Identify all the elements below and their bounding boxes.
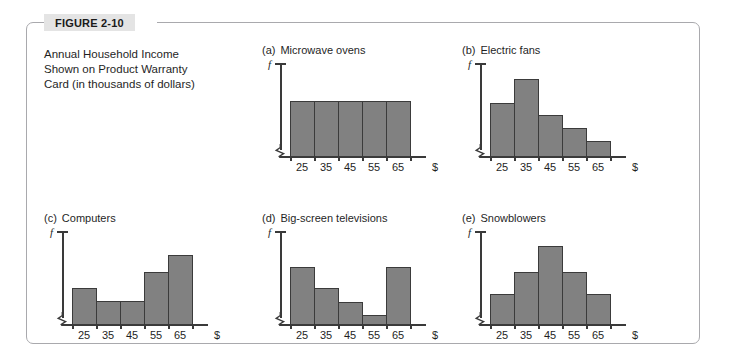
- panel-name-b: Electric fans: [480, 44, 540, 56]
- histogram-bar: [586, 141, 611, 157]
- x-axis-tick-label: 45: [339, 161, 361, 173]
- y-axis-cap: [475, 231, 486, 233]
- y-axis-label: f: [468, 226, 471, 238]
- panel-title-a: (a)Microwave ovens: [262, 44, 432, 58]
- histogram-bar: [338, 101, 363, 157]
- x-axis-tick-label: 55: [363, 161, 385, 173]
- x-axis-unit-symbol: $: [214, 329, 220, 341]
- x-axis-tick-label: 25: [491, 329, 513, 341]
- y-axis-cap: [475, 63, 486, 65]
- x-axis-tick-label: 65: [587, 329, 609, 341]
- panel-snowblowers: (e)Snowblowers f2535455565$: [462, 212, 632, 338]
- panel-title-d: (d)Big-screen televisions: [262, 212, 432, 226]
- panel-letter-c: (c): [44, 212, 57, 224]
- histogram-e: f2535455565$: [462, 226, 632, 338]
- panel-title-e: (e)Snowblowers: [462, 212, 632, 226]
- bars-layer: [72, 232, 192, 325]
- x-axis-tick-label: 35: [97, 329, 119, 341]
- x-axis-unit-symbol: $: [432, 161, 438, 173]
- histogram-bar: [514, 79, 539, 157]
- x-axis-unit-symbol: $: [632, 161, 638, 173]
- histogram-b: f2535455565$: [462, 58, 632, 170]
- histogram-bar: [314, 288, 339, 325]
- panel-letter-b: (b): [462, 44, 475, 56]
- x-axis-tick-label: 65: [169, 329, 191, 341]
- histogram-bar: [386, 101, 411, 157]
- histogram-bar: [168, 255, 193, 324]
- panel-computers: (c)Computers f2535455565$: [44, 212, 214, 338]
- histogram-bar: [96, 301, 121, 324]
- x-axis-tick-label: 55: [145, 329, 167, 341]
- x-axis-tick-label: 25: [291, 161, 313, 173]
- x-axis-tick-label: 35: [515, 161, 537, 173]
- bars-layer: [490, 64, 610, 157]
- histogram-bar: [362, 315, 387, 324]
- y-axis-label: f: [50, 226, 53, 238]
- histogram-bar: [538, 115, 563, 157]
- x-axis-tick-label: 45: [539, 161, 561, 173]
- panel-name-e: Snowblowers: [480, 212, 545, 224]
- bars-layer: [290, 232, 410, 325]
- x-axis-tick: [410, 156, 412, 161]
- x-axis-tick-label: 45: [339, 329, 361, 341]
- x-axis-tick-label: 25: [291, 329, 313, 341]
- histogram-bar: [290, 267, 315, 324]
- bars-layer: [490, 232, 610, 325]
- x-axis-tick-label: 65: [387, 161, 409, 173]
- x-axis-tick-label: 65: [387, 329, 409, 341]
- y-axis-line: [480, 64, 482, 150]
- x-axis-tick-label: 35: [315, 161, 337, 173]
- histogram-bar: [290, 101, 315, 157]
- y-axis-label: f: [268, 226, 271, 238]
- histogram-bar: [514, 272, 539, 325]
- histogram-bar: [338, 302, 363, 324]
- histogram-bar: [386, 267, 411, 324]
- figure-number-tab: FIGURE 2-10: [44, 14, 135, 31]
- histogram-bar: [562, 272, 587, 325]
- panel-microwave-ovens: (a)Microwave ovens f2535455565$: [262, 44, 432, 170]
- y-axis-line: [280, 232, 282, 318]
- histogram-bar: [314, 101, 339, 157]
- histogram-d: f2535455565$: [262, 226, 432, 338]
- x-axis-tick-label: 35: [515, 329, 537, 341]
- panel-letter-e: (e): [462, 212, 475, 224]
- panel-title-b: (b)Electric fans: [462, 44, 632, 58]
- histogram-bar: [362, 101, 387, 157]
- panel-letter-a: (a): [262, 44, 275, 56]
- histogram-bar: [490, 103, 515, 157]
- histogram-c: f2535455565$: [44, 226, 214, 338]
- y-axis-label: f: [268, 58, 271, 70]
- x-axis-tick: [610, 156, 612, 161]
- x-axis-tick-label: 45: [121, 329, 143, 341]
- histogram-bar: [144, 272, 169, 325]
- x-axis-tick-label: 25: [491, 161, 513, 173]
- panel-big-screen-televisions: (d)Big-screen televisions f2535455565$: [262, 212, 432, 338]
- y-axis-cap: [57, 231, 68, 233]
- x-axis-tick: [610, 324, 612, 329]
- histogram-a: f2535455565$: [262, 58, 432, 170]
- y-axis-cap: [275, 63, 286, 65]
- x-axis-tick: [410, 324, 412, 329]
- y-axis-line: [480, 232, 482, 318]
- caption-line-2: Shown on Product Warranty: [44, 62, 254, 77]
- panel-name-d: Big-screen televisions: [280, 212, 387, 224]
- panel-name-a: Microwave ovens: [280, 44, 365, 56]
- histogram-bar: [120, 301, 145, 324]
- panel-letter-d: (d): [262, 212, 275, 224]
- histogram-bar: [586, 294, 611, 325]
- figure-caption: Annual Household Income Shown on Product…: [44, 47, 254, 92]
- caption-line-1: Annual Household Income: [44, 47, 254, 62]
- histogram-bar: [538, 246, 563, 325]
- x-axis-tick-label: 45: [539, 329, 561, 341]
- x-axis-tick: [192, 324, 194, 329]
- y-axis-cap: [275, 231, 286, 233]
- caption-line-3: Card (in thousands of dollars): [44, 77, 254, 92]
- panel-title-c: (c)Computers: [44, 212, 214, 226]
- x-axis-tick-label: 25: [73, 329, 95, 341]
- histogram-bar: [72, 288, 97, 325]
- x-axis-unit-symbol: $: [632, 329, 638, 341]
- y-axis-line: [280, 64, 282, 150]
- y-axis-label: f: [468, 58, 471, 70]
- panel-electric-fans: (b)Electric fans f2535455565$: [462, 44, 632, 170]
- x-axis-unit-symbol: $: [432, 329, 438, 341]
